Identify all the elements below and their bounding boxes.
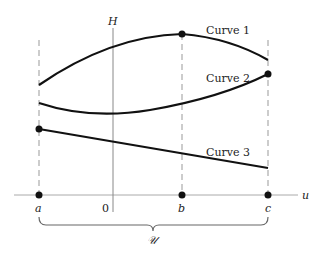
u-axis-label: u — [302, 189, 309, 202]
point-c-dot — [265, 192, 272, 199]
curve-2-label: Curve 2 — [206, 72, 250, 85]
brace-label: 𝒰 — [147, 234, 160, 247]
origin-label: 0 — [102, 202, 109, 215]
curve-1-max-dot — [179, 31, 186, 38]
curve-1-label: Curve 1 — [206, 24, 250, 37]
curve-3-max-dot — [36, 126, 43, 133]
domain-brace — [39, 217, 268, 231]
curve-3-label: Curve 3 — [206, 146, 250, 159]
diagram-canvas: Curve 1 Curve 2 Curve 3 H u 0 a b c 𝒰 — [0, 0, 323, 258]
curve-2-max-dot — [265, 71, 272, 78]
point-a-label: a — [35, 202, 42, 215]
point-b-label: b — [178, 202, 185, 215]
h-axis-label: H — [107, 15, 118, 28]
point-b-dot — [179, 192, 186, 199]
point-a-dot — [36, 192, 43, 199]
point-c-label: c — [265, 202, 271, 215]
